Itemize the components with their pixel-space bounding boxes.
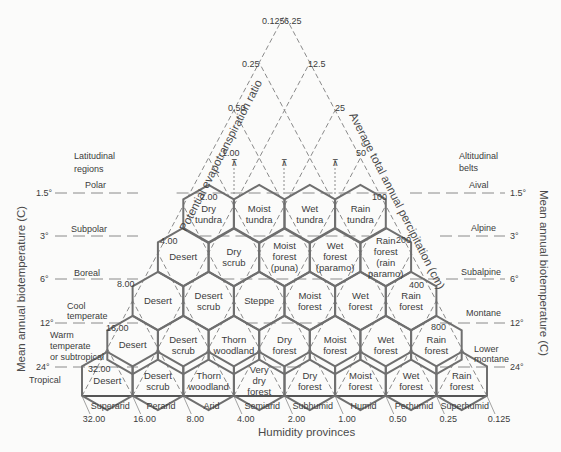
- life-zone-label: Desert: [144, 295, 172, 306]
- altitudinal-belt: Lower: [474, 344, 499, 354]
- life-zone-label: Wetforest(paramo): [316, 240, 355, 273]
- temp-tick-right: 12°: [510, 318, 524, 328]
- life-zone-label: Dryforest: [273, 334, 297, 356]
- humidity-province: Perarid: [146, 401, 175, 411]
- latitudinal-region: Polar: [85, 180, 106, 190]
- holdridge-diagram: DrytundraMoisttundraWettundraRaintundraD…: [0, 0, 561, 452]
- humidity-province: Superhumid: [440, 401, 489, 411]
- humidity-province: Superarid: [91, 401, 130, 411]
- life-zone-label: Raintundra: [347, 203, 375, 225]
- life-zone-label: Wetforest: [399, 370, 423, 392]
- precip-line: [209, 158, 336, 396]
- altitudinal-title: belts: [459, 163, 479, 173]
- life-zone-label: Moistforest: [323, 334, 347, 356]
- temp-tick-left: 1.5°: [36, 188, 53, 198]
- altitudinal-title: Altitudinal: [459, 151, 498, 161]
- arrow-icon: ⊼: [332, 158, 339, 168]
- temp-tick-right: 6°: [510, 274, 519, 284]
- altitudinal-belt: montane: [474, 354, 509, 364]
- life-zone-label: Verydryforest: [247, 364, 271, 397]
- life-zone-label: Wetforest: [349, 290, 373, 312]
- temp-tick-left: 3°: [40, 231, 49, 241]
- humidity-province: Perhumid: [395, 401, 434, 411]
- latitudinal-title: Latitudinal: [74, 151, 115, 161]
- left-vertical-title: Mean annual biotemperature (C): [15, 206, 27, 372]
- pet-ratio-tick: 16.00: [106, 323, 129, 333]
- humidity-province: Semiarid: [244, 401, 280, 411]
- latitudinal-region: Boreal: [74, 268, 100, 278]
- temp-tick-left: 12°: [40, 318, 54, 328]
- latitudinal-title: regions: [74, 164, 104, 174]
- precipitation-tick: 100: [372, 192, 387, 202]
- life-zone-label: Wetforest: [374, 334, 398, 356]
- latitudinal-region: temperate: [67, 311, 108, 321]
- life-zone-label: Thornwoodland: [213, 334, 255, 356]
- precipitation-tick: 800: [431, 322, 446, 332]
- pet-ratio-tick: 0.125: [262, 16, 285, 26]
- life-zone-label: Rainforest: [424, 334, 448, 356]
- bottom-tick-label: 1.00: [338, 414, 356, 424]
- altitudinal-belt: Alpine: [471, 223, 496, 233]
- life-zone-label: Thornwoodland: [187, 370, 229, 392]
- bottom-tick-label: 32.00: [83, 414, 106, 424]
- pet-ratio-tick: 0.25: [242, 59, 260, 69]
- life-zone-label: Desert: [93, 375, 121, 386]
- bottom-tick-label: 2.00: [288, 414, 306, 424]
- life-zone-label: Rainforest: [450, 370, 474, 392]
- temp-tick-right: 24°: [510, 362, 524, 372]
- arrow-icon: ⊼: [231, 158, 238, 168]
- temp-tick-right: 3°: [510, 231, 519, 241]
- altitudinal-belt: Aival: [469, 180, 489, 190]
- humidity-province: Subhumid: [293, 401, 334, 411]
- humidity-province: Humid: [350, 401, 376, 411]
- life-zone-label: Desertscrub: [195, 290, 223, 312]
- precipitation-tick: 25: [335, 103, 345, 113]
- life-zone-label: Wettundra: [296, 203, 324, 225]
- right-diagonal-title: Average total annual percipitation (cm): [347, 110, 447, 291]
- life-zone-label: Dryscrub: [222, 246, 245, 268]
- bottom-tick-label: 0.50: [389, 414, 407, 424]
- bottom-tick-label: 16.00: [133, 414, 156, 424]
- life-zone-label: Desertscrub: [144, 370, 172, 392]
- life-zone-label: Moistforest(puna): [271, 240, 298, 273]
- temp-tick-left: 6°: [40, 274, 49, 284]
- temp-tick-right: 1.5°: [510, 188, 527, 198]
- life-zone-label: Moistforest: [298, 290, 322, 312]
- hexagon-grid: [82, 185, 487, 410]
- life-zone-label: Moistforest: [349, 370, 373, 392]
- bottom-axis-title: Humidity provinces: [258, 426, 355, 438]
- bottom-tick-label: 0.25: [440, 414, 458, 424]
- precipitation-tick: 12.5: [308, 59, 326, 69]
- pet-ratio-tick: 8.00: [117, 279, 135, 289]
- arrow-icon: ⊼: [281, 158, 288, 168]
- life-zone-label: Dryforest: [298, 370, 322, 392]
- altitudinal-belt: Subalpine: [461, 267, 501, 277]
- life-zone-label: Moisttundra: [246, 203, 274, 225]
- pet-ratio-tick: 32.00: [88, 364, 111, 374]
- precipitation-tick: 6.25: [284, 16, 302, 26]
- life-zone-label: Rainforest: [399, 290, 423, 312]
- altitudinal-belt: Montane: [466, 308, 501, 318]
- latitudinal-region: Tropical: [29, 375, 61, 385]
- bottom-tick-label: 8.00: [186, 414, 204, 424]
- pet-line: [234, 158, 361, 396]
- humidity-province: Arid: [204, 401, 220, 411]
- latitudinal-region: Cool: [67, 301, 86, 311]
- latitudinal-region: temperate: [50, 341, 91, 351]
- life-zone-label: Desert: [119, 339, 147, 350]
- temp-tick-left: 24°: [36, 362, 50, 372]
- right-vertical-title: Mean annual biotemperature (C): [538, 190, 550, 356]
- life-zone-label: Desert: [169, 251, 197, 262]
- life-zone-label: Desertscrub: [169, 334, 197, 356]
- precipitation-tick: 400: [409, 280, 424, 290]
- life-zone-label: Steppe: [244, 295, 274, 306]
- latitudinal-region: Warm: [50, 330, 74, 340]
- bottom-tick-label: 0.125: [488, 414, 511, 424]
- bottom-tick-label: 4.00: [237, 414, 255, 424]
- pet-ratio-tick: 4.00: [160, 236, 178, 246]
- latitudinal-region: Subpolar: [71, 224, 107, 234]
- latitudinal-region: or subtropical: [50, 352, 104, 362]
